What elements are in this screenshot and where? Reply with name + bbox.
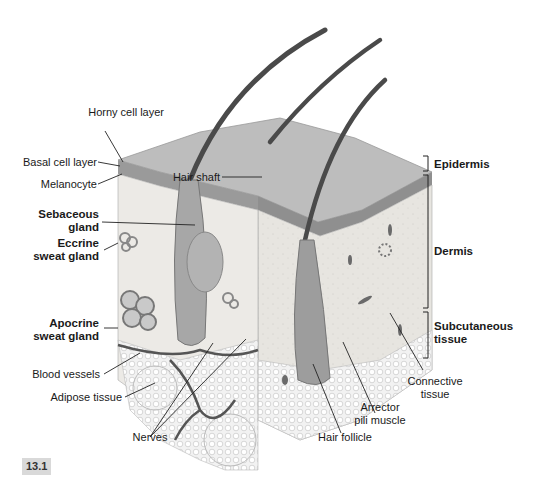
label-hair-follicle: Hair follicle (310, 431, 380, 444)
label-connective-line1: Connective (395, 375, 475, 388)
label-nerves: Nerves (120, 431, 180, 444)
label-connective-tissue: Connective tissue (395, 375, 475, 401)
label-subcutaneous-line1: Subcutaneous (434, 320, 513, 333)
label-eccrine-sweat-gland: Eccrine sweat gland (0, 237, 99, 263)
label-sebaceous-line2: gland (0, 221, 99, 234)
label-arrector-pili-muscle: Arrector pili muscle (340, 401, 420, 427)
figure-number-badge: 13.1 (22, 458, 51, 475)
label-hair-shaft: Hair shaft (140, 171, 220, 184)
label-adipose-tissue: Adipose tissue (0, 391, 122, 404)
label-horny-cell-layer: Horny cell layer (64, 106, 164, 119)
label-subcutaneous-tissue: Subcutaneous tissue (434, 320, 513, 346)
label-dermis: Dermis (434, 245, 473, 258)
label-sebaceous-line1: Sebaceous (0, 208, 99, 221)
label-eccrine-line2: sweat gland (0, 250, 99, 263)
label-epidermis: Epidermis (434, 158, 490, 171)
label-melanocyte: Melanocyte (0, 178, 97, 191)
label-apocrine-line1: Apocrine (0, 317, 99, 330)
label-basal-cell-layer: Basal cell layer (0, 156, 97, 169)
label-blood-vessels: Blood vessels (0, 368, 100, 381)
label-subcutaneous-line2: tissue (434, 333, 513, 346)
label-apocrine-sweat-gland: Apocrine sweat gland (0, 317, 99, 343)
label-eccrine-line1: Eccrine (0, 237, 99, 250)
label-connective-line2: tissue (395, 388, 475, 401)
label-arrector-line1: Arrector (340, 401, 420, 414)
label-sebaceous-gland: Sebaceous gland (0, 208, 99, 234)
label-arrector-line2: pili muscle (340, 414, 420, 427)
label-apocrine-line2: sweat gland (0, 330, 99, 343)
